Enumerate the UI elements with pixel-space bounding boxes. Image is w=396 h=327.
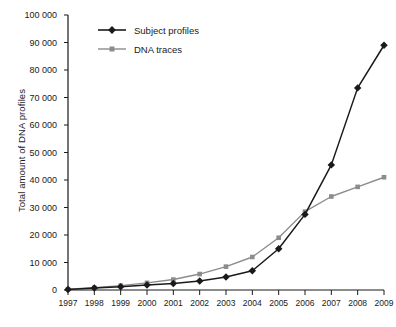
data-point — [329, 194, 334, 199]
data-point — [117, 283, 124, 290]
plot-area — [0, 0, 396, 327]
y-axis-tick-label: 50 000 — [0, 148, 57, 158]
y-axis-tick-label: 30 000 — [0, 203, 57, 213]
series-subject-profiles — [64, 42, 387, 294]
x-axis-tick-label: 2009 — [367, 298, 396, 308]
legend-marker-diamond-icon — [97, 24, 127, 36]
data-point — [355, 185, 360, 190]
legend-label: DNA traces — [134, 44, 182, 55]
axis-lines — [68, 15, 384, 290]
data-point — [197, 272, 202, 277]
series-line — [68, 177, 384, 289]
data-point — [222, 273, 229, 280]
legend-label: Subject profiles — [134, 25, 199, 36]
legend-item: Subject profiles — [97, 24, 199, 36]
data-point — [382, 175, 387, 180]
dna-profiles-line-chart: Total amount of DNA profiles 010 00020 0… — [0, 0, 396, 327]
y-axis-tick-label: 0 — [0, 285, 57, 295]
y-axis-tick-label: 10 000 — [0, 258, 57, 268]
y-axis-tick-label: 90 000 — [0, 38, 57, 48]
data-point — [380, 42, 387, 49]
data-point — [224, 264, 229, 269]
data-point — [328, 161, 335, 168]
data-point — [354, 84, 361, 91]
legend-item: DNA traces — [97, 43, 182, 55]
legend-marker-square-icon — [97, 43, 127, 55]
data-point — [64, 286, 71, 293]
y-axis-tick-label: 40 000 — [0, 175, 57, 185]
data-point — [250, 255, 255, 260]
y-axis-tick-label: 70 000 — [0, 93, 57, 103]
data-point — [170, 280, 177, 287]
y-axis-tick-label: 100 000 — [0, 10, 57, 20]
y-axis-tick-label: 80 000 — [0, 65, 57, 75]
y-axis-tick-label: 60 000 — [0, 120, 57, 130]
y-axis-tick-label: 20 000 — [0, 230, 57, 240]
data-point — [276, 235, 281, 240]
data-point — [196, 277, 203, 284]
series-line — [68, 45, 384, 289]
data-point — [91, 284, 98, 291]
